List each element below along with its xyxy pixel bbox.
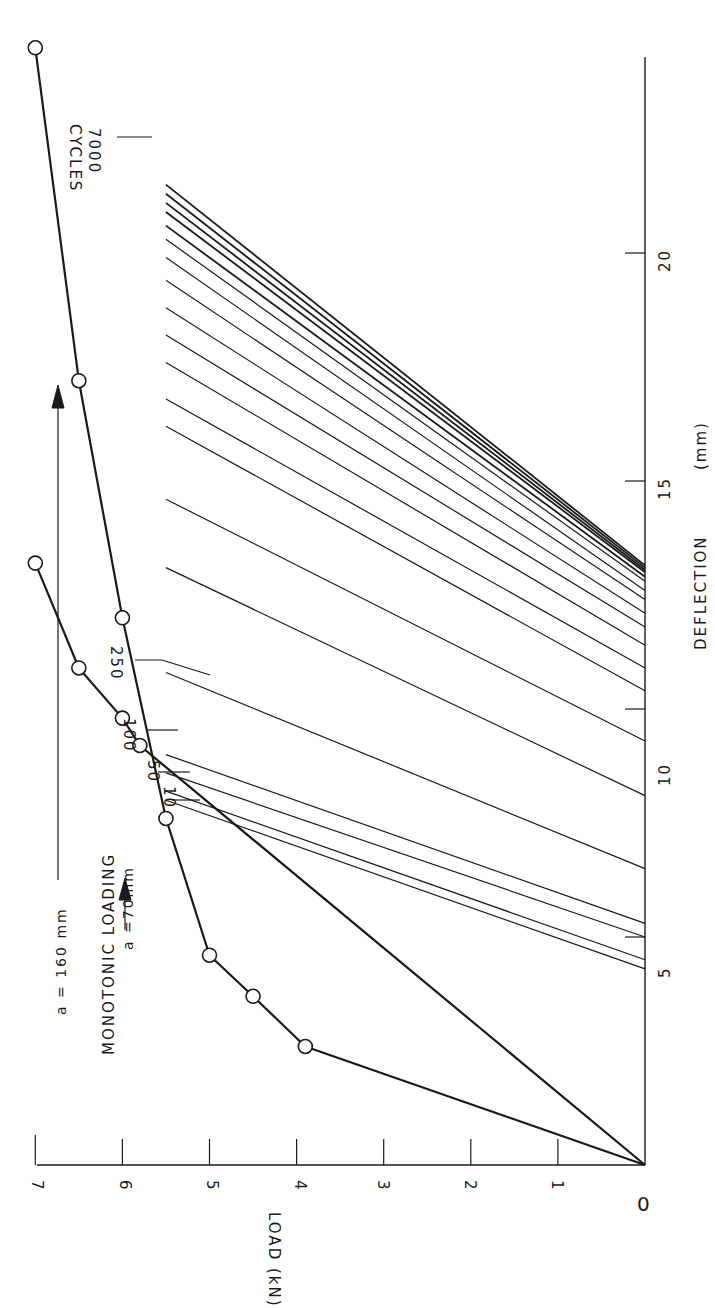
cycle-unload-line bbox=[166, 308, 645, 614]
cycle-label-cycles: CYCLES bbox=[66, 124, 84, 192]
data-point-marker bbox=[72, 661, 86, 675]
cycle-unload-line bbox=[166, 185, 645, 566]
cycle-unload-line bbox=[166, 791, 645, 960]
x-tick-20: 20 bbox=[656, 249, 674, 272]
x-tick-5: 5 bbox=[656, 966, 674, 978]
monotonic-curve-a70 bbox=[35, 48, 645, 1165]
a70-label: a =70mm bbox=[120, 866, 136, 950]
a160-label: a = 160 mm bbox=[53, 907, 69, 1015]
cycle-label-7000: 7000 bbox=[85, 128, 103, 174]
x-axis-unit: (mm) bbox=[692, 421, 710, 470]
y-tick-2: 2 bbox=[461, 1180, 479, 1192]
arrow-head-icon bbox=[52, 385, 64, 408]
cycle-unload-line bbox=[166, 335, 645, 627]
data-point-marker bbox=[246, 989, 260, 1003]
x-tick-15: 15 bbox=[656, 477, 674, 500]
cycle-label-100: 100 bbox=[120, 718, 138, 753]
x-axis-label: DEFLECTION bbox=[692, 535, 710, 650]
cycle-unload-line bbox=[166, 499, 645, 741]
cycle-unload-line bbox=[166, 239, 645, 581]
cycle-label-10: 10 bbox=[160, 786, 178, 809]
y-tick-4: 4 bbox=[291, 1180, 309, 1192]
y-tick-1: 1 bbox=[548, 1180, 566, 1192]
y-tick-5: 5 bbox=[203, 1180, 221, 1192]
data-point-marker bbox=[159, 811, 173, 825]
cycle-label-50: 50 bbox=[144, 760, 162, 783]
data-point-marker bbox=[28, 556, 42, 570]
x-tick-10: 10 bbox=[656, 763, 674, 786]
cycle-label-250: 250 bbox=[107, 646, 125, 681]
cycle-unload-line bbox=[166, 194, 645, 568]
monotonic-curve-a160 bbox=[35, 563, 645, 1165]
y-tick-0: 0 bbox=[637, 1192, 652, 1216]
cycle-unload-line bbox=[166, 226, 645, 577]
cycle-unload-line bbox=[166, 203, 645, 570]
cycle-unload-line bbox=[166, 362, 645, 645]
data-point-marker bbox=[72, 374, 86, 388]
monotonic-loading-label: MONOTONIC LOADING bbox=[100, 853, 118, 1055]
y-axis-label: LOAD (kN) bbox=[265, 1212, 283, 1308]
cycle-unload-line bbox=[166, 426, 645, 690]
y-tick-6: 6 bbox=[116, 1180, 134, 1192]
cycle-unload-line bbox=[166, 212, 645, 572]
data-point-marker bbox=[298, 1039, 312, 1053]
cycle-unload-line bbox=[166, 800, 645, 969]
y-tick-3: 3 bbox=[374, 1180, 392, 1192]
data-point-marker bbox=[203, 948, 217, 962]
data-point-marker bbox=[28, 41, 42, 55]
data-point-marker bbox=[115, 611, 129, 625]
cycle-unload-line bbox=[166, 258, 645, 591]
cycle-unload-line bbox=[166, 568, 645, 796]
y-tick-7: 7 bbox=[28, 1180, 46, 1192]
cycle-label-leader bbox=[135, 660, 210, 675]
cycle-unload-line bbox=[166, 773, 645, 937]
